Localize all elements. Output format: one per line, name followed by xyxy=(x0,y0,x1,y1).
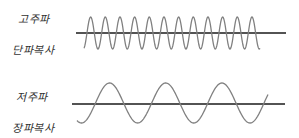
low-frequency-wave xyxy=(77,83,268,123)
wave-diagram xyxy=(0,0,299,138)
